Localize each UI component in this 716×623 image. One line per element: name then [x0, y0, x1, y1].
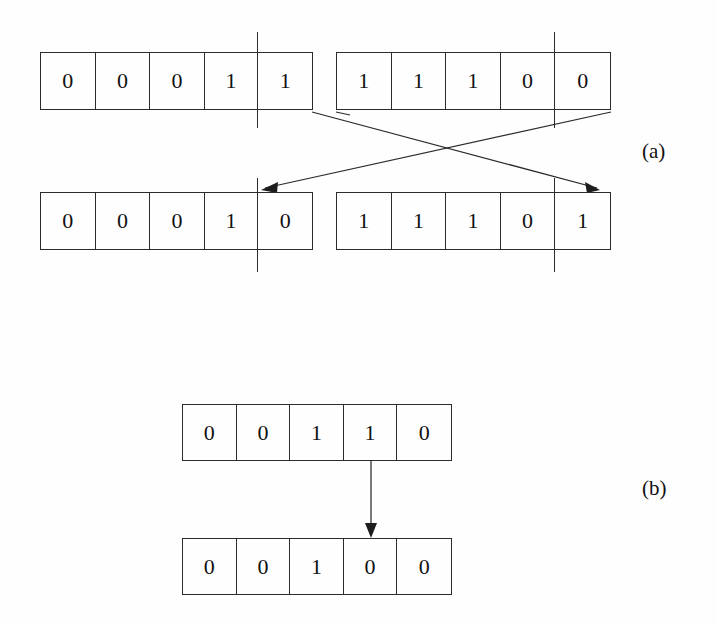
gene-cell[interactable]: 1	[344, 405, 398, 460]
gene-cell[interactable]: 1	[392, 53, 447, 109]
figure-canvas: 0 0 0 1 1 1 1 1 0 0 0 0 0 1 0 1 1 1 0 1 …	[0, 0, 716, 623]
gene-cell[interactable]: 0	[96, 193, 151, 249]
chromosome-offspring-2[interactable]: 1 1 1 0 1	[336, 192, 611, 250]
mutation-arrowhead	[365, 523, 377, 538]
chromosome-post-mutation[interactable]: 0 0 1 0 0	[182, 538, 452, 595]
gene-cell[interactable]: 1	[392, 193, 447, 249]
crossover-connector-p2-to-o1	[265, 112, 611, 188]
part-label-a: (a)	[642, 139, 665, 164]
crossover-point-marker-offspring-2	[554, 178, 555, 272]
gene-cell[interactable]: 1	[258, 53, 312, 109]
gene-cell[interactable]: 0	[501, 193, 556, 249]
chromosome-offspring-1[interactable]: 0 0 0 1 0	[40, 192, 313, 250]
crossover-point-marker-parent-2	[554, 32, 555, 128]
gene-cell[interactable]: 1	[205, 53, 259, 109]
gene-cell[interactable]: 1	[290, 539, 344, 594]
gene-cell[interactable]: 1	[555, 193, 610, 249]
gene-cell[interactable]: 0	[183, 539, 237, 594]
gene-cell[interactable]: 1	[205, 193, 259, 249]
gene-cell[interactable]: 0	[96, 53, 151, 109]
gene-cell[interactable]: 0	[258, 193, 312, 249]
gene-cell[interactable]: 0	[501, 53, 556, 109]
gene-cell[interactable]: 1	[446, 53, 501, 109]
crossover-point-marker-parent-1	[257, 32, 258, 128]
chromosome-pre-mutation[interactable]: 0 0 1 1 0	[182, 404, 452, 461]
chromosome-parent-1[interactable]: 0 0 0 1 1	[40, 52, 313, 110]
gene-cell[interactable]: 0	[41, 53, 96, 109]
part-label-b: (b)	[642, 476, 667, 501]
gene-cell[interactable]: 0	[183, 405, 237, 460]
gene-cell[interactable]: 1	[290, 405, 344, 460]
gene-cell[interactable]: 0	[397, 539, 451, 594]
gene-cell[interactable]: 0	[555, 53, 610, 109]
gene-cell[interactable]: 0	[150, 53, 205, 109]
gene-cell[interactable]: 0	[150, 193, 205, 249]
gene-cell[interactable]: 0	[237, 539, 291, 594]
chromosome-parent-2[interactable]: 1 1 1 0 0	[336, 52, 611, 110]
crossover-connector-stub	[336, 112, 350, 115]
crossover-point-marker-offspring-1	[257, 178, 258, 272]
gene-cell[interactable]: 0	[237, 405, 291, 460]
gene-cell[interactable]: 0	[344, 539, 398, 594]
gene-cell[interactable]: 0	[397, 405, 451, 460]
gene-cell[interactable]: 1	[337, 53, 392, 109]
gene-cell[interactable]: 0	[41, 193, 96, 249]
gene-cell[interactable]: 1	[337, 193, 392, 249]
gene-cell[interactable]: 1	[446, 193, 501, 249]
